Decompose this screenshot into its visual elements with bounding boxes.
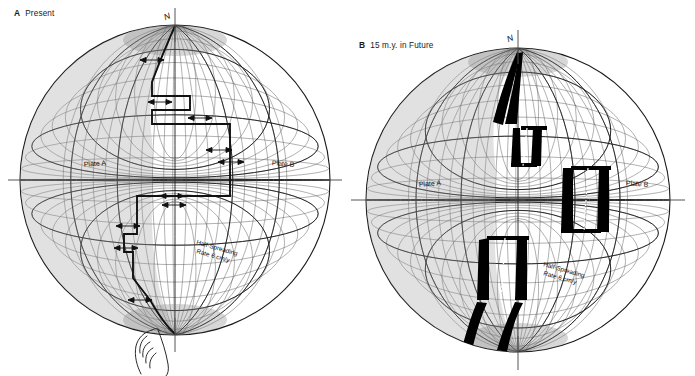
new-crust-band — [561, 229, 601, 233]
new-crust-band — [571, 166, 611, 170]
new-crust-band — [515, 238, 527, 300]
north-axis-label-b: N — [505, 32, 515, 44]
new-crust-band — [477, 238, 489, 300]
new-crust-band — [597, 168, 609, 232]
hand-icon — [135, 329, 168, 376]
new-crust-band — [561, 168, 573, 232]
panel-a: APresent — [0, 0, 350, 376]
figure-root: APresent — [0, 0, 695, 376]
panel-b: B15 m.y. in Future — [345, 0, 695, 376]
new-crust-band — [511, 163, 537, 167]
globe-a: N Plate A Plate B Half-Spreading Rate 6 … — [0, 0, 350, 376]
north-axis-label-a: N — [162, 10, 172, 22]
globe-b: N Plate A Plate B Half-Spreading Rate 6 … — [345, 0, 695, 376]
new-crust-band — [521, 126, 547, 130]
new-crust-band — [487, 236, 529, 240]
